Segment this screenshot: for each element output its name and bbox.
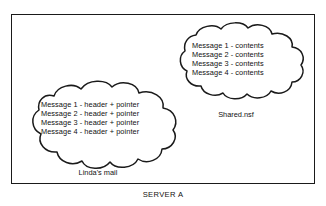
server-boundary-box <box>11 14 315 184</box>
shared-nsf-message-list: Message 1 - contents Message 2 - content… <box>192 42 264 78</box>
message-line: Message 4 - contents <box>192 69 264 78</box>
lindas-mail-label: Linda's mail <box>58 168 138 177</box>
message-line: Message 4 - header + pointer <box>41 128 139 137</box>
lindas-mail-message-list: Message 1 - header + pointer Message 2 -… <box>41 101 139 137</box>
server-diagram: Message 1 - contents Message 2 - content… <box>0 0 326 206</box>
figure-caption: SERVER A <box>0 190 326 199</box>
shared-nsf-label: Shared.nsf <box>196 110 276 119</box>
